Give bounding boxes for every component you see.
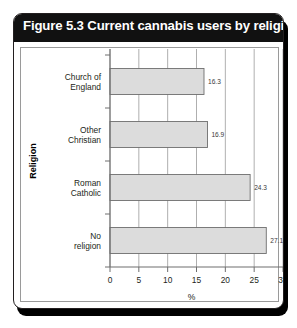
y-axis-title: Religion [28, 143, 38, 179]
figure-title-bar: Figure 5.3 Current cannabis users by rel… [13, 13, 284, 42]
bar [110, 69, 204, 95]
category-label: England [70, 82, 101, 92]
figure-root: Figure 5.3 Current cannabis users by rel… [0, 0, 297, 328]
bar-value-label: 16.3 [208, 78, 221, 85]
bar-value-label: 24.3 [254, 184, 267, 191]
xtick-label: 30 [278, 275, 284, 285]
xtick-label: 25 [250, 275, 260, 285]
category-label: Roman [74, 178, 101, 188]
xtick-label: 5 [136, 275, 141, 285]
chart-plot-area: 051015202530 Church ofEnglandOtherChrist… [14, 43, 284, 309]
category-label: Other [80, 125, 101, 135]
value-labels-group: 16.316.924.327.1 [208, 78, 283, 244]
figure-card: Figure 5.3 Current cannabis users by rel… [13, 13, 284, 311]
bar [110, 122, 207, 148]
category-label: No [90, 231, 101, 241]
xtick-labels-group: 051015202530 [108, 275, 284, 285]
xtick-label: 0 [108, 275, 113, 285]
bars-group [110, 69, 266, 254]
category-label: Christian [68, 135, 101, 145]
bar [110, 228, 266, 254]
xtick-label: 20 [221, 275, 231, 285]
x-axis-title: % [188, 292, 196, 302]
category-label: Church of [65, 72, 102, 82]
category-label: Catholic [71, 188, 101, 198]
bar-chart-svg: 051015202530 Church ofEnglandOtherChrist… [14, 43, 284, 309]
category-label: religion [74, 241, 101, 251]
category-labels-group: Church ofEnglandOtherChristianRomanCatho… [65, 72, 102, 252]
figure-title: Figure 5.3 Current cannabis users by rel… [23, 18, 284, 33]
bar-value-label: 16.9 [211, 131, 224, 138]
card-body: Figure 5.3 Current cannabis users by rel… [13, 13, 284, 309]
bar [110, 175, 250, 201]
xtick-label: 10 [163, 275, 173, 285]
xtick-label: 15 [192, 275, 202, 285]
bar-value-label: 27.1 [270, 237, 283, 244]
